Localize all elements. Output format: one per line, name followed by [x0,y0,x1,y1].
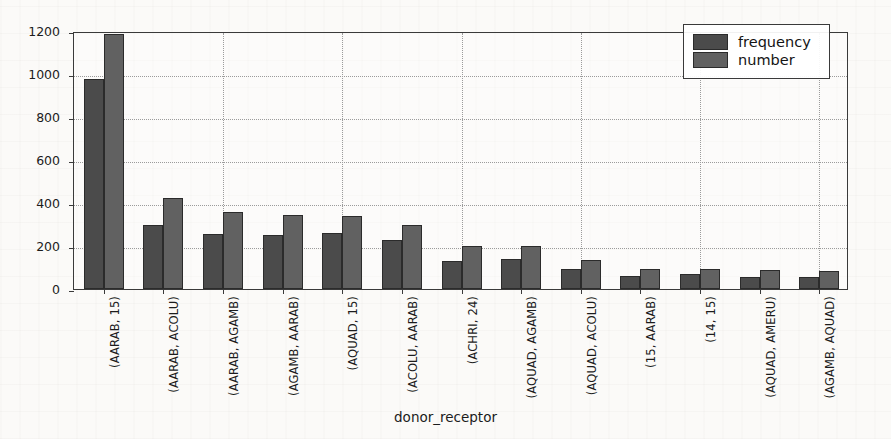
bar-group [322,33,362,289]
x-tick-mark [819,289,820,294]
bar-number [640,269,660,289]
y-tick-mark [69,291,74,292]
legend-swatch-number [693,52,728,68]
x-category-label: (15, AARAB) [644,296,658,368]
y-tick-label: 1200 [0,24,68,39]
x-axis-title: donor_receptor [0,409,891,425]
x-category-label: (AQUAD, ACOLU) [585,296,599,395]
bar-number [700,269,720,289]
x-category-label: (AGAMB, AARAB) [287,296,301,396]
bar-number [581,260,601,289]
bar-frequency [84,79,104,289]
bar-frequency [203,234,223,289]
x-tick-mark [581,289,582,294]
bar-frequency [442,261,462,289]
legend-label-frequency: frequency [738,34,811,50]
y-tick-mark [69,33,74,34]
bar-frequency [322,233,342,289]
x-tick-mark [104,289,105,294]
y-tick-label: 800 [0,110,68,125]
x-category-label: (ACHRI, 24) [466,296,480,364]
bar-frequency [680,274,700,289]
bar-number [283,215,303,289]
bar-chart-figure: 020040060080010001200 (AARAB, 15)(AARAB,… [0,0,891,439]
bar-group [442,33,482,289]
y-tick-mark [69,248,74,249]
chart-legend: frequency number [683,24,830,79]
x-category-label: (AARAB, 15) [108,296,122,368]
bar-number [402,225,422,290]
bar-frequency [620,276,640,289]
bar-frequency [382,240,402,289]
x-category-label: (14, 15) [704,296,718,343]
bar-number [104,34,124,289]
y-tick-label: 1000 [0,67,68,82]
bar-frequency [143,225,163,290]
bar-group [263,33,303,289]
x-tick-mark [640,289,641,294]
legend-swatch-frequency [693,34,728,50]
x-category-label: (AQUAD, 15) [346,296,360,370]
legend-item-frequency: frequency [693,34,820,50]
x-tick-mark [163,289,164,294]
y-tick-label: 200 [0,239,68,254]
x-tick-mark [521,289,522,294]
bar-frequency [799,277,819,289]
bar-number [163,198,183,289]
bar-group [203,33,243,289]
x-category-label: (AARAB, ACOLU) [167,296,181,393]
x-category-label: (AQUAD, AGAMB) [525,296,539,399]
y-tick-label: 0 [0,282,68,297]
bar-number [521,246,541,289]
bar-number [819,271,839,289]
bar-number [462,246,482,289]
x-tick-mark [283,289,284,294]
x-tick-mark [700,289,701,294]
y-tick-mark [69,76,74,77]
bar-group [561,33,601,289]
y-tick-label: 600 [0,153,68,168]
x-category-label: (AARAB, AGAMB) [227,296,241,396]
bar-group [84,33,124,289]
y-tick-mark [69,162,74,163]
legend-item-number: number [693,52,820,68]
x-category-label: (ACOLU, AARAB) [406,296,420,393]
x-tick-mark [402,289,403,294]
y-tick-mark [69,205,74,206]
bar-frequency [740,277,760,289]
bar-group [620,33,660,289]
bar-number [760,270,780,289]
x-tick-mark [223,289,224,294]
bar-group [143,33,183,289]
y-tick-mark [69,119,74,120]
bar-number [223,212,243,289]
x-category-label: (AQUAD, AMERU) [764,296,778,398]
bar-frequency [263,235,283,289]
bar-group [501,33,541,289]
bar-number [342,216,362,289]
bar-group [382,33,422,289]
y-tick-label: 400 [0,196,68,211]
x-category-label: (AGAMB, AQUAD) [823,296,837,399]
legend-label-number: number [738,52,795,68]
x-tick-mark [760,289,761,294]
x-tick-mark [462,289,463,294]
x-tick-mark [342,289,343,294]
bar-frequency [501,259,521,289]
bar-frequency [561,269,581,289]
